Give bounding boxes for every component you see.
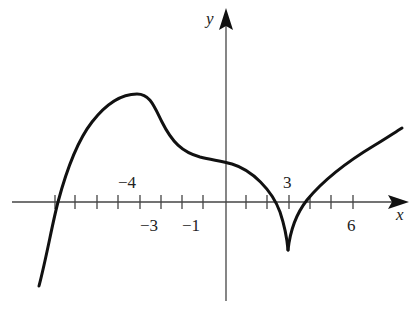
tick-label-3: 3: [283, 174, 292, 191]
y-axis-label: y: [206, 10, 214, 27]
function-curve-left: [39, 94, 288, 286]
x-axis-label: x: [396, 206, 404, 223]
graph-canvas: [0, 0, 410, 333]
function-curve-right: [288, 128, 402, 250]
tick-label-neg3: −3: [140, 217, 158, 234]
tick-label-neg4: −4: [118, 174, 136, 191]
function-graph: y x −4 3 −3 −1 6: [0, 0, 410, 333]
tick-label-6: 6: [347, 217, 356, 234]
tick-label-neg1: −1: [182, 217, 200, 234]
